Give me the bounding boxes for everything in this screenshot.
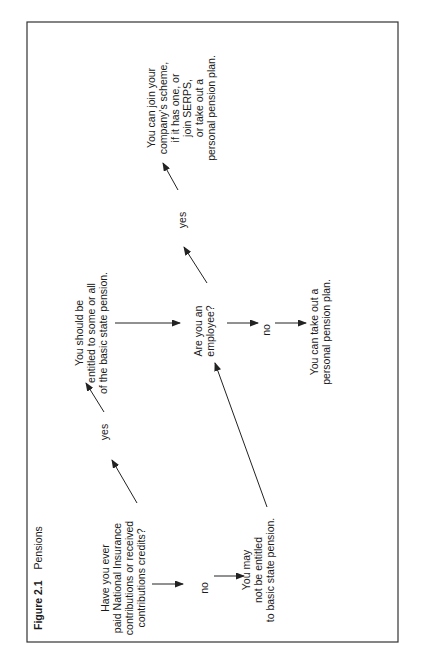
q1-line-4: contributions credits? <box>135 528 147 627</box>
label-yes-2: yes <box>176 212 188 228</box>
company-line-5: or take out a <box>193 79 205 138</box>
figure-caption: Figure 2.1 Pensions <box>32 526 44 630</box>
company-line-6: personal pension plan. <box>205 55 217 161</box>
node-should-be-entitled: You should be entitled to some or all of… <box>73 272 109 394</box>
node-company-scheme: You can join your company's scheme, if i… <box>145 55 217 161</box>
q2-line-2: employee? <box>204 305 216 357</box>
q1-line-1: Have you ever <box>99 544 111 612</box>
company-line-3: if it has one, or <box>169 73 181 142</box>
company-line-4: join SERPS, <box>181 79 193 138</box>
label-no-1: no <box>198 582 210 594</box>
node-question-employee: Are you an employee? <box>192 305 216 357</box>
should-be-line-2: entitled to some or all <box>85 283 97 383</box>
figure-title: Pensions <box>32 526 44 569</box>
figure-number: Figure 2.1 <box>32 580 44 630</box>
may-not-line-2: not be entitled <box>252 537 264 603</box>
company-line-1: You can join your <box>145 67 157 148</box>
node-question-ni-contributions: Have you ever paid National Insurance co… <box>99 521 147 636</box>
arrow-may-not-to-employee <box>215 363 267 507</box>
may-not-line-3: to basic state pension. <box>264 518 276 622</box>
company-line-2: company's scheme, <box>157 62 169 154</box>
node-personal-pension: You can take out a personal pension plan… <box>308 279 332 385</box>
personal-line-2: personal pension plan. <box>320 279 332 385</box>
may-not-line-1: You may <box>240 549 252 590</box>
label-yes-1: yes <box>98 424 110 440</box>
q1-line-2: paid National Insurance <box>111 523 123 633</box>
arrow-yes-to-company <box>163 163 178 190</box>
personal-line-1: You can take out a <box>308 289 320 376</box>
label-no-2: no <box>260 324 272 336</box>
should-be-line-3: of the basic state pension. <box>97 272 109 394</box>
arrow-q1-to-yes <box>112 460 137 503</box>
q2-line-1: Are you an <box>192 305 204 356</box>
q1-line-3: contributions or received <box>123 521 135 636</box>
pensions-flowchart: Figure 2.1 Pensions Have you ever paid N… <box>0 0 421 667</box>
node-may-not-be-entitled: You may not be entitled to basic state p… <box>240 518 276 622</box>
should-be-line-1: You should be <box>73 300 85 366</box>
arrow-employee-to-yes <box>184 247 207 283</box>
